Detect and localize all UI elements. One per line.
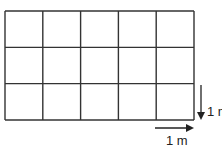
horizontal-scale-arrow — [155, 124, 194, 132]
grid-diagram: 1 m 1 m — [0, 0, 222, 147]
vertical-scale-label: 1 m — [207, 104, 222, 119]
vertical-scale-arrow — [197, 85, 205, 120]
grid — [5, 11, 194, 120]
horizontal-scale-label: 1 m — [166, 133, 188, 147]
